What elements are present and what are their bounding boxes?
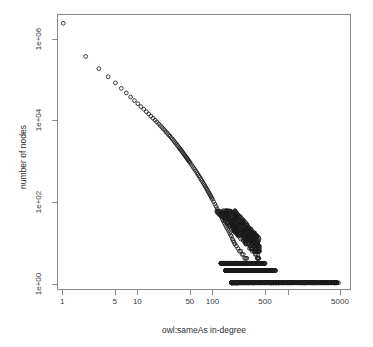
x-tick-label: 100 — [206, 297, 219, 307]
x-tick-mark — [340, 290, 341, 295]
data-points-layer — [58, 15, 350, 289]
x-tick-mark — [62, 290, 63, 295]
x-tick-mark — [288, 290, 289, 295]
y-tick-mark — [52, 120, 57, 121]
x-tick-label: 5000 — [331, 297, 349, 307]
x-tick-mark — [265, 290, 266, 295]
x-tick-mark — [190, 290, 191, 295]
x-tick-label: 1 — [60, 297, 64, 307]
x-tick-label: 10 — [133, 297, 142, 307]
plot-area — [57, 14, 351, 290]
y-tick-mark — [52, 39, 57, 40]
y-tick-label: 1e+06 — [0, 34, 50, 44]
scatter-points — [58, 15, 350, 289]
y-tick-mark — [52, 284, 57, 285]
x-tick-mark — [212, 290, 213, 295]
x-tick-mark — [115, 290, 116, 295]
x-tick-label: 5 — [113, 297, 117, 307]
y-tick-mark — [52, 202, 57, 203]
scatter-plot-figure: 1510501005005000 1e+001e+021e+041e+06 ow… — [0, 0, 373, 347]
x-tick-label: 50 — [185, 297, 194, 307]
y-axis-title: number of nodes — [18, 87, 28, 227]
x-axis-title: owl:sameAs in-degree — [57, 325, 351, 335]
y-tick-label: 1e+00 — [0, 279, 50, 289]
x-tick-mark — [137, 290, 138, 295]
x-tick-label: 500 — [258, 297, 271, 307]
